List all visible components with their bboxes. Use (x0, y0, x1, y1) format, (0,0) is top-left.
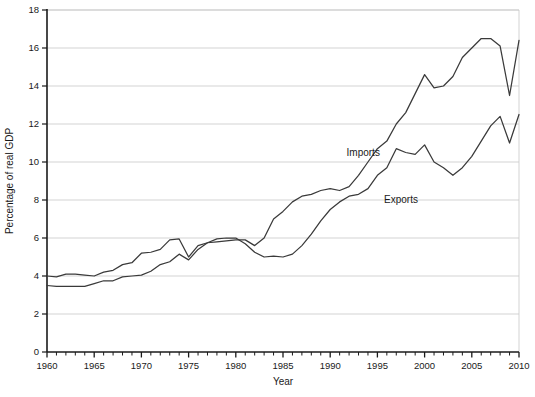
y-tick-label: 18 (28, 4, 39, 15)
x-tick-label: 1980 (225, 360, 246, 371)
x-tick-label: 1970 (131, 360, 152, 371)
x-tick-label: 1975 (178, 360, 199, 371)
x-tick-label: 1990 (320, 360, 341, 371)
y-tick-label: 2 (34, 308, 39, 319)
x-tick-label: 2010 (508, 360, 529, 371)
y-tick-label: 16 (28, 42, 39, 53)
x-tick-label: 1995 (367, 360, 388, 371)
y-tick-label: 14 (28, 80, 39, 91)
x-axis-title: Year (273, 376, 294, 387)
chart-container: 0246810121416181960196519701975198019851… (0, 0, 535, 397)
exports-label: Exports (384, 194, 418, 205)
x-tick-label: 2000 (414, 360, 435, 371)
y-tick-label: 4 (34, 270, 39, 281)
y-tick-label: 12 (28, 118, 39, 129)
imports-label: Imports (347, 147, 380, 158)
x-tick-label: 1985 (272, 360, 293, 371)
x-tick-label: 1965 (84, 360, 105, 371)
plot-area (47, 10, 519, 352)
y-tick-label: 6 (34, 232, 39, 243)
y-tick-label: 8 (34, 194, 39, 205)
x-tick-label: 1960 (36, 360, 57, 371)
y-tick-label: 0 (34, 346, 39, 357)
y-tick-label: 10 (28, 156, 39, 167)
line-chart: 0246810121416181960196519701975198019851… (0, 0, 535, 397)
y-axis-title: Percentage of real GDP (4, 128, 15, 234)
x-tick-label: 2005 (461, 360, 482, 371)
